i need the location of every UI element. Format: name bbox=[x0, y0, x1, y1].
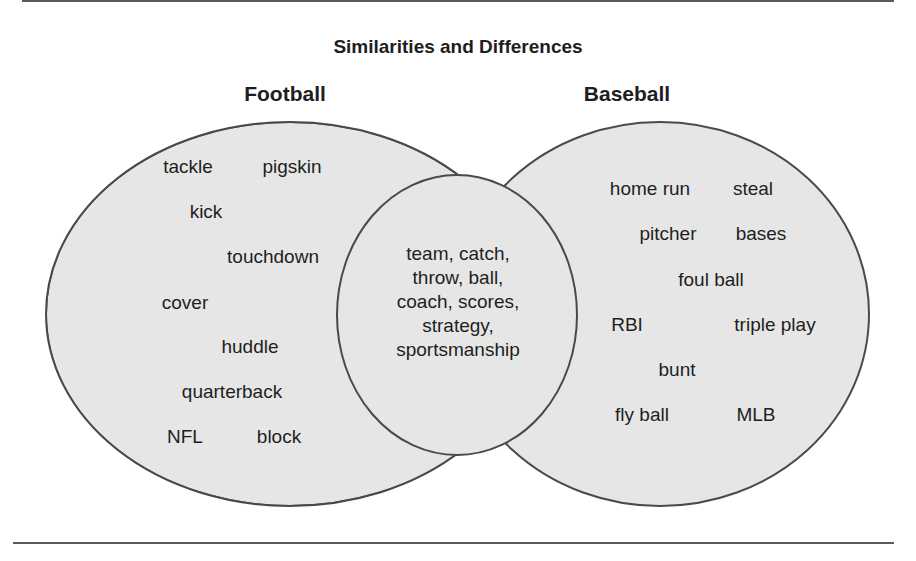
shared-term-line: strategy, bbox=[396, 314, 520, 338]
baseball-term: bunt bbox=[659, 359, 696, 381]
football-term: quarterback bbox=[182, 381, 282, 403]
shared-term-line: throw, ball, bbox=[396, 266, 520, 290]
shared-term-line: coach, scores, bbox=[396, 290, 520, 314]
baseball-term: triple play bbox=[734, 314, 815, 336]
baseball-term: fly ball bbox=[615, 404, 669, 426]
shared-terms: team, catch, throw, ball, coach, scores,… bbox=[396, 242, 520, 362]
football-term: touchdown bbox=[227, 246, 319, 268]
football-term: kick bbox=[190, 201, 223, 223]
shared-term-line: team, catch, bbox=[396, 242, 520, 266]
football-term: huddle bbox=[221, 336, 278, 358]
football-term: tackle bbox=[163, 156, 213, 178]
baseball-term: MLB bbox=[736, 404, 775, 426]
football-term: cover bbox=[162, 292, 208, 314]
baseball-term: RBI bbox=[611, 314, 643, 336]
baseball-term: bases bbox=[736, 223, 787, 245]
football-term: NFL bbox=[167, 426, 203, 448]
baseball-term: home run bbox=[610, 178, 690, 200]
football-term: block bbox=[257, 426, 301, 448]
baseball-term: steal bbox=[733, 178, 773, 200]
bottom-rule bbox=[13, 542, 894, 544]
baseball-term: foul ball bbox=[678, 269, 744, 291]
football-term: pigskin bbox=[262, 156, 321, 178]
shared-term-line: sportsmanship bbox=[396, 338, 520, 362]
baseball-term: pitcher bbox=[639, 223, 696, 245]
